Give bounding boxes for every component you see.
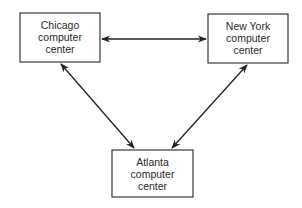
node-chicago-line-3: center <box>45 43 75 55</box>
network-diagram: Chicago computer center New York compute… <box>0 0 302 208</box>
node-atlanta-line-2: computer <box>131 168 175 180</box>
node-newyork: New York computer center <box>208 14 288 63</box>
node-chicago-line-2: computer <box>38 31 82 43</box>
node-newyork-line-3: center <box>233 44 263 56</box>
node-newyork-line-1: New York <box>226 20 271 32</box>
node-chicago: Chicago computer center <box>20 13 100 62</box>
node-atlanta-line-1: Atlanta <box>136 156 169 168</box>
node-chicago-line-1: Chicago <box>41 19 80 31</box>
node-newyork-line-2: computer <box>226 32 270 44</box>
edge-newyork-atlanta <box>172 65 247 148</box>
node-atlanta: Atlanta computer center <box>112 150 193 197</box>
edge-chicago-atlanta <box>61 64 134 148</box>
node-atlanta-line-3: center <box>138 180 168 192</box>
